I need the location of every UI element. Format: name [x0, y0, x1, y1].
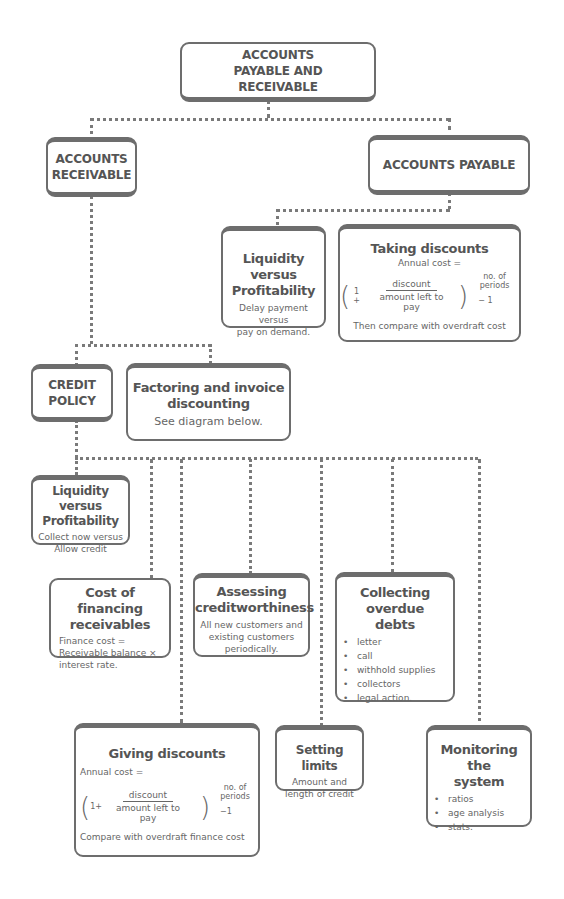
- node-title: Liquidity versus: [33, 484, 128, 514]
- list-item: letter: [343, 635, 453, 649]
- node-body: Collect now versus: [33, 531, 128, 543]
- list-item: age analysis: [434, 806, 530, 820]
- node-title: Assessing: [195, 584, 308, 600]
- list-item: call: [343, 649, 453, 663]
- node-body: All new customers and: [195, 619, 308, 631]
- node-title: Liquidity versus: [223, 251, 324, 283]
- close-paren: ): [200, 794, 210, 820]
- node-body: Amount and: [277, 776, 362, 788]
- payable-liquidity-node: Liquidity versus Profitability Delay pay…: [221, 226, 326, 328]
- node-title: debts: [337, 617, 453, 633]
- list-item: collectors: [343, 677, 453, 691]
- accounts-receivable-node: ACCOUNTS RECEIVABLE: [46, 137, 137, 197]
- accounts-receivable-label: ACCOUNTS: [55, 151, 127, 167]
- credit-policy-node: CREDIT POLICY: [31, 364, 113, 422]
- annual-cost-label: Annual cost =: [80, 766, 258, 778]
- exponent: no. of periods −1: [212, 797, 258, 816]
- connector: [75, 344, 211, 347]
- collecting-node: Collecting overdue debts letter call wit…: [335, 572, 455, 702]
- connector: [180, 459, 183, 723]
- one-plus: 1 +: [350, 287, 363, 305]
- root-node: ACCOUNTS PAYABLE AND RECEIVABLE: [180, 42, 376, 102]
- setting-limits-node: Setting limits Amount and length of cred…: [275, 725, 364, 791]
- taking-discounts-node: Taking discounts Annual cost = ( 1 + dis…: [338, 224, 521, 342]
- accounts-payable-label: ACCOUNTS PAYABLE: [383, 157, 515, 173]
- node-body: pay on demand.: [223, 326, 324, 338]
- connector: [448, 193, 451, 209]
- connector: [90, 196, 93, 344]
- node-body: Receivable balance ×: [59, 647, 169, 659]
- list-item: ratios: [434, 792, 530, 806]
- fraction: discount amount left to pay: [108, 790, 188, 823]
- annual-cost-label: Annual cost =: [340, 257, 519, 269]
- connector: [267, 100, 270, 118]
- credit-policy-label: CREDIT: [48, 377, 96, 393]
- connector: [276, 209, 450, 212]
- list-item: withhold supplies: [343, 663, 453, 677]
- fraction: discount amount left to pay: [369, 279, 454, 312]
- node-title: system: [428, 774, 530, 790]
- denominator: amount left to pay: [369, 291, 454, 312]
- root-label: ACCOUNTS PAYABLE AND RECEIVABLE: [182, 47, 374, 95]
- receivable-liquidity-node: Liquidity versus Profitability Collect n…: [31, 475, 130, 545]
- cost-of-financing-node: Cost of financing receivables Finance co…: [49, 578, 171, 658]
- giving-discounts-node: Giving discounts Annual cost = ( 1+ disc…: [74, 723, 260, 857]
- connector: [276, 209, 279, 225]
- exponent: no. of periods − 1: [470, 286, 519, 305]
- annual-cost-formula: ( 1+ discount amount left to pay ) no. o…: [76, 790, 258, 823]
- connector: [75, 420, 78, 475]
- connector: [75, 344, 78, 366]
- connector: [150, 459, 153, 579]
- accounts-receivable-label: RECEIVABLE: [52, 167, 132, 183]
- connector: [478, 459, 481, 729]
- node-body: Delay payment versus: [223, 302, 324, 326]
- node-body: See diagram below.: [128, 414, 289, 429]
- connector: [320, 459, 323, 726]
- connector: [391, 459, 394, 572]
- node-title: Taking discounts: [340, 241, 519, 257]
- exponent-label: no. of periods: [212, 783, 258, 801]
- node-title: receivables: [51, 617, 169, 633]
- connector: [448, 118, 451, 130]
- node-body: Finance cost =: [59, 635, 169, 647]
- node-title: Factoring and invoice: [128, 380, 289, 396]
- close-paren: ): [458, 283, 468, 309]
- node-title: Giving discounts: [76, 746, 258, 762]
- node-title: Monitoring the: [428, 742, 530, 774]
- credit-policy-label: POLICY: [48, 393, 95, 409]
- monitoring-node: Monitoring the system ratios age analysi…: [426, 725, 532, 827]
- node-title: Profitability: [33, 514, 128, 529]
- minus-one: − 1: [478, 296, 492, 305]
- node-body: Allow credit: [33, 543, 128, 555]
- node-title: Cost of financing: [51, 585, 169, 617]
- node-footer: Then compare with overdraft cost: [340, 320, 519, 332]
- open-paren: (: [80, 794, 90, 820]
- node-body: interest rate.: [59, 659, 169, 671]
- node-body: existing customers: [195, 631, 308, 643]
- connector: [90, 118, 450, 121]
- annual-cost-formula: ( 1 + discount amount left to pay ) no. …: [340, 279, 519, 312]
- connector: [249, 459, 252, 574]
- list-item: legal action.: [343, 691, 453, 705]
- node-footer: Compare with overdraft finance cost: [80, 831, 258, 843]
- node-title: creditworthiness: [195, 600, 308, 616]
- denominator: amount left to pay: [108, 802, 188, 823]
- numerator: discount: [386, 279, 436, 291]
- collecting-list: letter call withhold supplies collectors…: [337, 635, 453, 705]
- assessing-node: Assessing creditworthiness All new custo…: [193, 573, 310, 657]
- accounts-payable-node: ACCOUNTS PAYABLE: [368, 135, 530, 195]
- list-item: stats.: [434, 820, 530, 834]
- node-body: periodically.: [195, 643, 308, 655]
- node-title: discounting: [128, 396, 289, 412]
- exponent-label: no. of periods: [470, 272, 519, 290]
- connector: [209, 344, 212, 364]
- one-plus: 1+: [90, 802, 102, 811]
- connector: [75, 457, 478, 460]
- connector: [90, 118, 93, 134]
- minus-one: −1: [220, 807, 232, 816]
- open-paren: (: [340, 283, 350, 309]
- node-title: Profitability: [223, 283, 324, 299]
- numerator: discount: [123, 790, 173, 802]
- node-body: length of credit: [277, 788, 362, 800]
- monitoring-list: ratios age analysis stats.: [428, 792, 530, 834]
